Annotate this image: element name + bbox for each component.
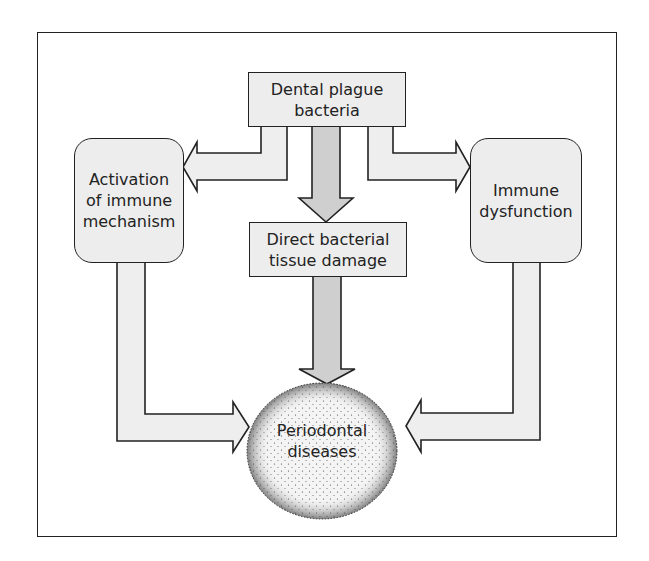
node-immune-dysfunction: Immune dysfunction: [470, 138, 582, 263]
node-direct-bacterial-tissue-damage: Direct bacterial tissue damage: [249, 222, 407, 277]
node-label: Direct bacterial tissue damage: [266, 229, 389, 271]
node-periodontal-diseases-label: Periodontal diseases: [247, 420, 397, 462]
node-label: Immune dysfunction: [479, 180, 572, 222]
node-label: Dental plague bacteria: [271, 79, 383, 121]
node-label: Activation of immune mechanism: [83, 169, 176, 232]
node-dental-plague-bacteria: Dental plague bacteria: [248, 72, 406, 127]
node-activation-of-immune-mechanism: Activation of immune mechanism: [74, 138, 184, 263]
